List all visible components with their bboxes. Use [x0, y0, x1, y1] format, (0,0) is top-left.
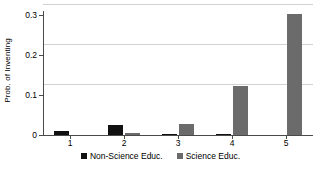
- x-tick-label: 2: [114, 139, 134, 148]
- bar: [125, 133, 140, 135]
- legend-swatch-icon: [177, 153, 183, 159]
- plot-area: [43, 11, 313, 135]
- bar: [54, 131, 69, 135]
- bar: [179, 124, 194, 135]
- x-tick-label: 4: [222, 139, 242, 148]
- bar: [287, 14, 302, 135]
- gridline: [43, 4, 313, 5]
- x-tick-label: 1: [60, 139, 80, 148]
- y-axis-title: Prob. of Inventing: [0, 0, 14, 140]
- bar: [162, 134, 177, 135]
- bar: [108, 125, 123, 135]
- y-tick-label: 0: [11, 131, 37, 140]
- bar: [233, 86, 248, 135]
- legend: Non-Science Educ.Science Educ.: [0, 152, 321, 161]
- y-tick-label: 0.3: [11, 11, 37, 20]
- x-tick-label: 5: [276, 139, 296, 148]
- legend-label: Science Educ.: [186, 152, 240, 161]
- x-tick-label: 3: [168, 139, 188, 148]
- legend-item[interactable]: Science Educ.: [177, 152, 240, 161]
- y-tick-label: 0.1: [11, 91, 37, 100]
- bar-chart: Prob. of Inventing 00.10.20.3 12345 Non-…: [0, 0, 321, 171]
- legend-swatch-icon: [81, 153, 87, 159]
- legend-item[interactable]: Non-Science Educ.: [81, 152, 163, 161]
- y-tick-label: 0.2: [11, 51, 37, 60]
- bar: [216, 134, 231, 135]
- legend-label: Non-Science Educ.: [90, 152, 163, 161]
